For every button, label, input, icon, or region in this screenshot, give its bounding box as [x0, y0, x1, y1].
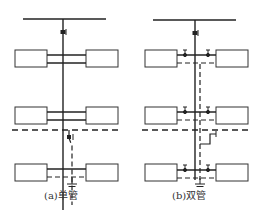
radiator-b-1-left — [145, 50, 177, 67]
heating-riser-diagram: (a)单管 — [0, 0, 259, 219]
radiator-b-3-right — [216, 164, 248, 181]
radiator-b-2-right — [216, 107, 248, 124]
radiator-a-3-left — [15, 164, 47, 181]
radiator-a-1-left — [15, 50, 47, 67]
drain-icon — [195, 178, 205, 187]
radiator-a-2-left — [15, 107, 47, 124]
drain-icon — [67, 177, 77, 187]
radiator-a-2-right — [86, 107, 118, 124]
radiator-b-1-right — [216, 50, 248, 67]
caption-b: (b)双管 — [172, 189, 206, 201]
radiator-b-2-left — [145, 107, 177, 124]
radiator-b-3-left — [145, 164, 177, 181]
branch-pipe-b — [200, 134, 216, 144]
caption-a: (a)单管 — [44, 189, 78, 201]
radiator-a-1-right — [86, 50, 118, 67]
panel-a-single-pipe — [12, 19, 120, 210]
panel-b-double-pipe — [142, 20, 250, 187]
radiator-a-3-right — [86, 164, 118, 181]
